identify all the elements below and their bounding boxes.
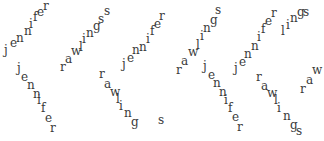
captcha-image: jenniferjenniferrawlingssjenniferrawling… xyxy=(0,0,324,141)
captcha-glyph: j xyxy=(122,58,126,70)
captcha-glyph: i xyxy=(277,102,281,114)
captcha-glyph: j xyxy=(4,44,8,56)
captcha-glyph: s xyxy=(215,4,221,16)
captcha-glyph: r xyxy=(300,83,306,95)
captcha-glyph: j xyxy=(234,62,238,74)
captcha-glyph: l xyxy=(281,25,285,37)
captcha-glyph: s xyxy=(303,6,309,18)
captcha-glyph: r xyxy=(50,122,56,134)
captcha-glyph: i xyxy=(119,100,123,112)
captcha-glyph: j xyxy=(203,60,207,72)
captcha-glyph: n xyxy=(16,32,24,44)
captcha-glyph: r xyxy=(271,7,277,19)
captcha-glyph: w xyxy=(312,64,322,76)
captcha-glyph: s xyxy=(296,125,302,137)
captcha-glyph: r xyxy=(43,0,49,12)
captcha-glyph: s xyxy=(104,5,110,17)
captcha-glyph: r xyxy=(159,10,165,22)
captcha-glyph: s xyxy=(158,114,164,126)
captcha-glyph: g xyxy=(131,116,139,128)
captcha-glyph: r xyxy=(237,121,243,133)
